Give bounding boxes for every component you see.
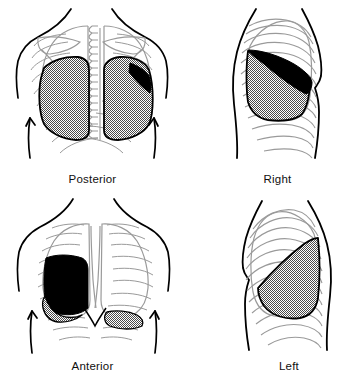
anterior-diagram	[8, 196, 188, 358]
posterior-diagram	[8, 6, 188, 171]
panel-anterior[interactable]	[8, 196, 188, 358]
panel-label-left: Left	[230, 360, 340, 372]
panel-label-anterior: Anterior	[0, 360, 185, 372]
left-lateral-diagram	[232, 198, 340, 358]
panel-posterior[interactable]	[8, 6, 188, 171]
panel-label-right: Right	[215, 173, 340, 185]
body-outline	[18, 199, 170, 291]
panel-right[interactable]	[222, 6, 334, 171]
right-lateral-diagram	[222, 6, 334, 171]
left-lower-lobe-stipple	[105, 311, 143, 329]
left-lower-lobe-stipple	[104, 57, 153, 140]
spine-column	[89, 26, 100, 140]
panel-label-posterior: Posterior	[0, 173, 185, 185]
right-lower-lobe-stipple	[39, 57, 89, 140]
figure-canvas: Posterior Right Anterior Left	[0, 0, 340, 382]
panel-left[interactable]	[232, 198, 340, 358]
right-middle-lobe-black	[44, 255, 88, 315]
